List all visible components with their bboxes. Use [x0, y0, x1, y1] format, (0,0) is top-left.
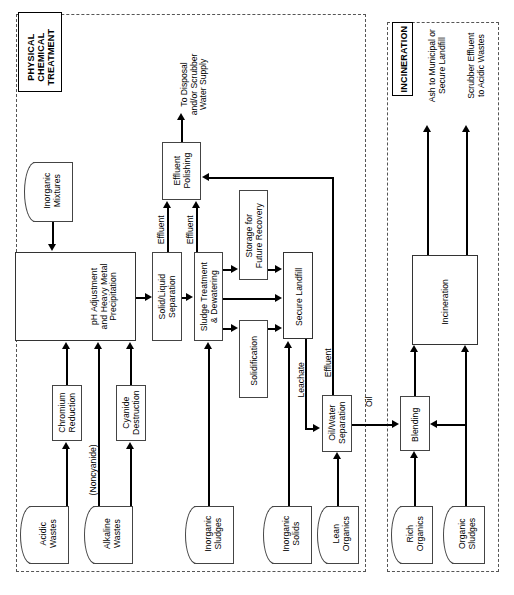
source-rich-organics-label: Rich Organics — [406, 505, 425, 563]
arrowhead-blending-to-incineration — [410, 345, 418, 352]
process-blending-label: Blending — [411, 397, 421, 452]
flowchart-canvas: PHYSICAL CHEMICAL TREATMENT INCINERATION… — [0, 0, 514, 595]
cylinder-label-wrap: Organic Sludges — [452, 506, 485, 564]
connector-rich-organics-to-blending — [414, 458, 416, 506]
process-solidification: Solidification — [239, 320, 268, 398]
process-blending: Blending — [400, 396, 430, 451]
cylinder-label-wrap: Inorganic Mixtures — [33, 162, 73, 222]
arrowhead-sludge-to-storage — [231, 265, 238, 273]
source-alkaline-wastes: Alkaline Wastes — [93, 506, 133, 564]
process-effluent-polishing: Effluent Polishing — [162, 142, 201, 200]
source-organic-sludges: Organic Sludges — [452, 506, 485, 564]
connector-oil-water-effluent-rail — [209, 177, 333, 179]
source-acidic-wastes: Acidic Wastes — [29, 506, 69, 564]
arrowhead-organic-sludges-to-incineration — [461, 345, 469, 352]
process-cyanide-destruction: Cyanide Destruction — [116, 385, 146, 441]
flow-label-oil: Oil — [365, 389, 375, 415]
connector-incineration-to-ash — [427, 132, 429, 255]
process-ph-adjustment: pH Adjustment and Heavy Metal Precipitat… — [15, 252, 136, 341]
process-oil-water-separation: Oil/Water Separation — [322, 395, 352, 452]
arrowhead-inorganic-sludges-to-sludge-treatment — [204, 342, 212, 349]
cylinder-label-wrap: Lean Organics — [326, 506, 359, 564]
arrowhead-effluent-to-polishing — [202, 173, 209, 181]
cylinder-label-wrap: Inorganic Solids — [272, 506, 312, 564]
source-inorganic-mixtures-label: Inorganic Mixtures — [43, 161, 62, 221]
connector-storage-to-secure-landfill — [268, 269, 275, 271]
connector-inorganic-sludges-to-sludge-treatment — [208, 349, 210, 506]
flow-label-to-disposal: To Disposal and/or Scrubber Water Supply — [180, 40, 209, 128]
arrowhead-incineration-to-ash — [423, 125, 431, 132]
flow-label-noncyanide: (Noncyanide) — [89, 440, 99, 500]
process-ph-adjustment-label: pH Adjustment and Heavy Metal Precipitat… — [90, 252, 119, 341]
process-incineration-label: Incineration — [441, 269, 451, 335]
arrowhead-alkaline-to-cyanide — [126, 442, 134, 449]
arrowhead-leachate-to-oil-water — [313, 424, 320, 432]
connector-acidic-to-chromium — [66, 449, 68, 506]
flow-label-effluent-oil-water: Effluent — [324, 339, 334, 387]
arrowhead-oil-to-blending — [392, 420, 399, 428]
arrowhead-lean-organics-to-oil-water — [333, 452, 341, 459]
process-cyanide-destruction-label: Cyanide Destruction — [122, 385, 141, 441]
cylinder-label-wrap: Alkaline Wastes — [93, 506, 133, 564]
process-sludge-treatment-dewatering: Sludge Treatment & Dewatering — [194, 252, 223, 341]
arrowhead-alkaline-noncyanide-to-ph — [94, 342, 102, 349]
cylinder-label-wrap: Inorganic Sludges — [194, 506, 234, 564]
process-solid-liquid-separation: Solid/Liquid Separation — [152, 252, 182, 341]
source-inorganic-sludges-label: Inorganic Sludges — [204, 505, 223, 563]
title-incineration: INCINERATION — [392, 22, 413, 96]
connector-incineration-to-scrubber — [466, 132, 468, 255]
flow-label-ash-to-landfill: Ash to Municipal or Secure Landfill — [428, 21, 447, 111]
process-sludge-treatment-dewatering-label: Sludge Treatment & Dewatering — [200, 252, 219, 341]
source-alkaline-wastes-label: Alkaline Wastes — [103, 505, 122, 563]
connector-solid-liquid-effluent-to-polishing — [167, 208, 169, 252]
connector-sludge-effluent-to-polishing — [196, 208, 198, 252]
arrowhead-chromium-to-ph — [62, 342, 70, 349]
connector-lean-organics-to-oil-water — [337, 459, 339, 506]
arrowhead-solidification-to-secure-landfill — [275, 324, 282, 332]
flow-label-effluent-solid-liquid: Effluent — [157, 208, 167, 252]
process-storage-future-recovery: Storage for Future Recovery — [239, 190, 268, 280]
process-solidification-label: Solidification — [250, 322, 260, 400]
connector-organic-sludges-to-blending — [437, 424, 466, 426]
process-incineration: Incineration — [412, 255, 478, 345]
source-inorganic-solids: Inorganic Solids — [272, 506, 312, 564]
process-storage-future-recovery-label: Storage for Future Recovery — [245, 191, 264, 281]
connector-sludge-to-secure-landfill — [223, 298, 275, 300]
title-incineration-label: INCINERATION — [399, 22, 409, 96]
arrowhead-acidic-to-chromium — [62, 442, 70, 449]
source-inorganic-sludges: Inorganic Sludges — [194, 506, 234, 564]
arrowhead-solid-liquid-to-sludge — [186, 293, 193, 301]
process-secure-landfill: Secure Landfill — [283, 252, 313, 339]
flow-label-leachate: Leachate — [297, 356, 307, 404]
connector-oil-to-blending — [352, 424, 392, 426]
source-acidic-wastes-label: Acidic Wastes — [39, 505, 58, 563]
source-rich-organics: Rich Organics — [400, 506, 433, 564]
source-organic-sludges-label: Organic Sludges — [458, 505, 477, 563]
title-physical-chemical-treatment-label: PHYSICAL CHEMICAL TREATMENT — [26, 17, 56, 97]
connector-cyanide-to-ph — [130, 349, 132, 385]
connector-inorganic-solids-to-secure-landfill — [288, 348, 290, 506]
connector-inorganic-mixtures-to-ph — [52, 222, 54, 245]
arrowhead-sludge-to-solidification — [231, 324, 238, 332]
arrowhead-sludge-to-secure-landfill — [275, 294, 282, 302]
process-chromium-reduction-label: Chromium Reduction — [58, 385, 77, 441]
process-effluent-polishing-label: Effluent Polishing — [173, 142, 192, 200]
process-solid-liquid-separation-label: Solid/Liquid Separation — [158, 252, 177, 341]
arrowhead-rich-organics-to-blending — [410, 451, 418, 458]
process-chromium-reduction: Chromium Reduction — [52, 385, 82, 441]
arrowhead-organic-sludges-to-blending — [430, 420, 437, 428]
cylinder-label-wrap: Rich Organics — [400, 506, 433, 564]
arrowhead-incineration-to-scrubber — [462, 125, 470, 132]
arrowhead-storage-to-secure-landfill — [275, 265, 282, 273]
process-oil-water-separation-label: Oil/Water Separation — [328, 394, 347, 451]
connector-solidification-to-secure-landfill — [268, 328, 275, 330]
connector-alkaline-to-cyanide — [130, 449, 132, 506]
connector-chromium-to-ph — [66, 349, 68, 385]
source-inorganic-mixtures: Inorganic Mixtures — [33, 162, 73, 222]
source-lean-organics-label: Lean Organics — [332, 505, 351, 563]
connector-blending-to-incineration — [414, 352, 416, 396]
connector-organic-sludges-to-incineration — [465, 352, 467, 506]
source-inorganic-solids-label: Inorganic Solids — [282, 505, 301, 563]
source-lean-organics: Lean Organics — [326, 506, 359, 564]
cylinder-label-wrap: Acidic Wastes — [29, 506, 69, 564]
